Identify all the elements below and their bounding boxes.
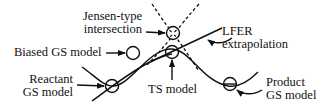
biased-gs-circle [127,47,140,60]
product-gs-label: Product GS model [266,76,316,102]
product-label-line2: GS model [266,89,316,102]
reactant-label-line2: GS model [18,86,73,99]
reactant-gs-label: Reactant GS model [18,73,73,99]
product-arrow [237,90,262,94]
biased-gs-label: Biased GS model [14,46,102,59]
jensen-circle [167,27,180,40]
reaction-profile-diagram: Jensen-type intersection Biased GS model… [0,0,323,106]
jensen-arrow [146,32,165,33]
lfer-label: LFER extrapolation [222,25,288,51]
jensen-label-line2: intersection [78,23,142,36]
jensen-label: Jensen-type intersection [78,10,142,36]
product-gs-circle [224,78,237,91]
reactant-arrow [77,85,104,86]
lfer-label-line2: extrapolation [222,38,288,51]
ts-model-label: TS model [148,83,197,96]
